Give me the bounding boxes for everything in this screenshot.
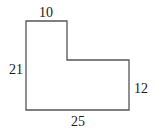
l-shape-outline	[26, 21, 129, 110]
bottom-width-label: 25	[71, 114, 85, 129]
l-shape-diagram: 10 21 12 25	[0, 0, 154, 133]
right-height-label: 12	[134, 81, 148, 96]
top-width-label: 10	[39, 5, 53, 20]
left-height-label: 21	[9, 62, 23, 77]
